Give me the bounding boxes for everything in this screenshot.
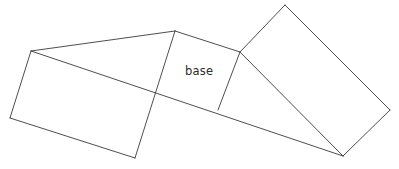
base-label: base <box>185 64 213 78</box>
geometric-net-diagram: base <box>0 0 399 169</box>
net-svg-canvas: base <box>0 0 399 169</box>
labels-group: base <box>185 64 213 78</box>
